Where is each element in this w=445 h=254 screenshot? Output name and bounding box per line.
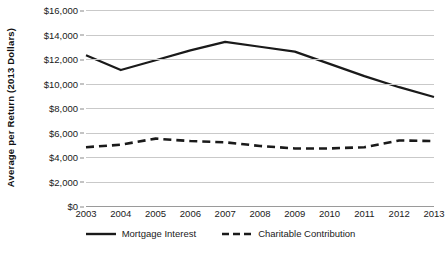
plot-area xyxy=(86,10,434,206)
x-axis-tick-label: 2010 xyxy=(319,208,340,219)
gridline xyxy=(86,84,434,85)
x-axis-tick-label: 2013 xyxy=(423,208,444,219)
legend-item: Charitable Contribution xyxy=(222,228,355,239)
y-axis-tick-label: $4,000 xyxy=(49,152,78,163)
x-axis-tick-label: 2003 xyxy=(75,208,96,219)
gridline xyxy=(86,182,434,183)
legend-swatch-solid-icon xyxy=(86,229,116,239)
gridline xyxy=(86,108,434,109)
legend-swatch-dashed-icon xyxy=(222,229,252,239)
chart-legend: Mortgage InterestCharitable Contribution xyxy=(0,228,441,239)
y-axis-tick-labels: $0$2,000$4,000$6,000$8,000$10,000$12,000… xyxy=(22,10,84,206)
y-axis-tick-label: $14,000 xyxy=(44,29,78,40)
x-axis-tick-label: 2011 xyxy=(354,208,374,219)
gridline xyxy=(86,133,434,134)
legend-label: Mortgage Interest xyxy=(122,228,196,239)
x-axis-tick-label: 2004 xyxy=(110,208,131,219)
y-axis-tick-label: $12,000 xyxy=(44,54,78,65)
y-axis-tick-label: $2,000 xyxy=(49,176,78,187)
y-axis-tick-label: $8,000 xyxy=(49,103,78,114)
gridline xyxy=(86,10,434,11)
x-axis-tick-label: 2008 xyxy=(249,208,270,219)
x-axis-tick-label: 2012 xyxy=(389,208,410,219)
x-axis-tick-label: 2007 xyxy=(215,208,236,219)
gridline xyxy=(86,206,434,207)
x-axis-tick-label: 2009 xyxy=(284,208,305,219)
y-axis-tick-label: $16,000 xyxy=(44,5,78,16)
y-axis-title: Average per Return (2013 Dollars) xyxy=(0,0,22,215)
y-axis-tick-label: $10,000 xyxy=(44,78,78,89)
gridline xyxy=(86,59,434,60)
series-line xyxy=(86,42,434,97)
gridline xyxy=(86,35,434,36)
legend-item: Mortgage Interest xyxy=(86,228,196,239)
series-line xyxy=(86,139,434,149)
y-axis-title-text: Average per Return (2013 Dollars) xyxy=(6,28,17,187)
y-axis-tick-label: $6,000 xyxy=(49,127,78,138)
x-axis-tick-label: 2006 xyxy=(180,208,201,219)
gridline xyxy=(86,157,434,158)
legend-label: Charitable Contribution xyxy=(258,228,355,239)
x-axis-tick-label: 2005 xyxy=(145,208,166,219)
x-axis-tick-labels: 2003200420052006200720082009201020112012… xyxy=(86,208,434,224)
